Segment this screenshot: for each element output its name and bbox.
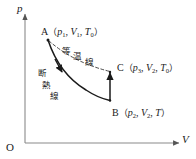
state-label-c-t-sub: 0 — [166, 67, 169, 74]
state-label-a-t-sub: 0 — [90, 31, 93, 38]
state-label-a-close-paren: ） — [94, 27, 103, 37]
state-label-c-p: p — [133, 62, 138, 73]
state-label-b-close-paren: ） — [161, 108, 170, 118]
diagram-canvas — [0, 0, 196, 159]
state-label-c-p-sub: 3 — [138, 67, 141, 74]
state-label-b-open-paren: （ — [119, 108, 128, 118]
state-label-b-v-sub: 2 — [147, 112, 150, 119]
state-label-a-v-sub: 1 — [77, 31, 80, 38]
isothermal-label-char-3: 線 — [85, 58, 94, 67]
isothermal-label-char-2: 温 — [73, 52, 82, 61]
state-label-c: C（p3, V2, T0） — [117, 63, 178, 73]
adiabatic-label-char-2: 熱 — [42, 81, 51, 90]
v-axis-label: V — [182, 134, 189, 145]
isothermal-label-char-1: 等 — [62, 47, 71, 56]
point-marker-a — [47, 39, 50, 42]
state-label-c-name: C — [117, 62, 124, 73]
state-label-c-t: T — [160, 62, 166, 73]
state-label-a-v: V — [70, 26, 76, 37]
pv-diagram-figure: p V O A（p1, V1, T0） C（p3, V2, T0） B（p2, … — [0, 0, 196, 159]
adiabatic-label-char-1: 断 — [38, 69, 47, 78]
adiabatic-label-char-3: 線 — [50, 92, 59, 101]
state-label-c-open-paren: （ — [124, 63, 133, 73]
state-label-b-p-sub: 2 — [133, 112, 136, 119]
state-label-c-close-paren: ） — [169, 63, 178, 73]
state-label-c-v-sub: 2 — [152, 67, 155, 74]
point-marker-c — [109, 71, 111, 73]
state-label-b-p: p — [128, 107, 133, 118]
state-label-a: A（p1, V1, T0） — [41, 27, 103, 37]
p-axis-label: p — [17, 3, 23, 14]
state-label-b: B（p2, V2, T） — [112, 108, 170, 118]
state-label-b-name: B — [112, 107, 119, 118]
state-label-a-open-paren: （ — [48, 27, 57, 37]
state-label-a-p-sub: 1 — [62, 31, 65, 38]
point-marker-b — [109, 99, 111, 101]
origin-label: O — [6, 142, 14, 153]
